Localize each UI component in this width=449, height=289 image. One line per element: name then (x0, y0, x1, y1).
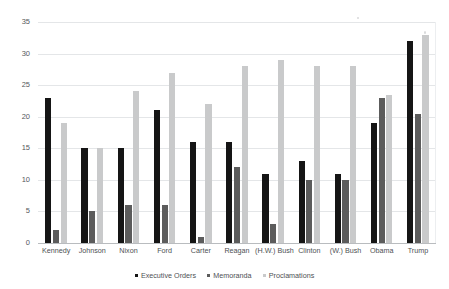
bar (226, 142, 232, 243)
y-axis-tick-label: 20 (4, 113, 30, 121)
scan-speck (357, 17, 359, 19)
plot-area (38, 22, 436, 243)
bar (162, 205, 168, 243)
bar (379, 98, 385, 243)
legend-label: Executive Orders (141, 271, 196, 280)
bar-groups (38, 22, 436, 243)
bar (198, 237, 204, 243)
bar-group (255, 22, 291, 243)
bar (61, 123, 67, 243)
bar (169, 73, 175, 243)
bar (53, 230, 59, 243)
y-axis-tick-label: 10 (4, 176, 30, 184)
x-axis-tick-label: Reagan (219, 247, 255, 254)
bar-group (74, 22, 110, 243)
x-axis-tick-label: Johnson (74, 247, 110, 254)
bar (118, 148, 124, 243)
y-axis-tick-label: 15 (4, 145, 30, 153)
x-axis-tick-label: Nixon (110, 247, 146, 254)
legend-item: Proclamations (263, 271, 315, 280)
gridline (38, 243, 436, 244)
x-axis-tick-label: Kennedy (38, 247, 74, 254)
legend-label: Proclamations (269, 271, 315, 280)
x-axis-tick-label: Trump (400, 247, 436, 254)
bar-chart: 05101520253035 KennedyJohnsonNixonFordCa… (0, 0, 449, 289)
bar (299, 161, 305, 243)
bar-group (291, 22, 327, 243)
bar (45, 98, 51, 243)
x-axis-tick-label: Carter (183, 247, 219, 254)
legend-item: Memoranda (207, 271, 252, 280)
legend-swatch-icon (135, 274, 138, 277)
y-axis-tick-label: 30 (4, 50, 30, 58)
legend-label: Memoranda (213, 271, 251, 280)
bar (133, 91, 139, 243)
bar (386, 95, 392, 243)
bar (154, 110, 160, 243)
bar (81, 148, 87, 243)
x-axis-tick-label: Clinton (291, 247, 327, 254)
bar-group (110, 22, 146, 243)
bar (262, 174, 268, 243)
legend-swatch-icon (207, 274, 210, 277)
bar (314, 66, 320, 243)
legend-swatch-icon (263, 274, 266, 277)
bar (407, 41, 413, 243)
bar (335, 174, 341, 243)
bar (125, 205, 131, 243)
bar (242, 66, 248, 243)
bar (89, 211, 95, 243)
bar (350, 66, 356, 243)
bar (270, 224, 276, 243)
bar (278, 60, 284, 243)
y-axis-tick-label: 35 (4, 18, 30, 26)
x-axis-tick-label: Ford (147, 247, 183, 254)
legend-item: Executive Orders (135, 271, 196, 280)
bar-group (183, 22, 219, 243)
bar (415, 114, 421, 243)
y-axis-tick-label: 5 (4, 208, 30, 216)
bar-group (147, 22, 183, 243)
bar (342, 180, 348, 243)
bar-group (327, 22, 363, 243)
bar (97, 148, 103, 243)
bar (306, 180, 312, 243)
bar (422, 35, 428, 243)
bar-group (364, 22, 400, 243)
x-axis-tick-label: Obama (364, 247, 400, 254)
x-axis-tick-label: (W.) Bush (327, 247, 363, 254)
legend: Executive OrdersMemorandaProclamations (0, 271, 449, 280)
bar (205, 104, 211, 243)
bar (234, 167, 240, 243)
bar (371, 123, 377, 243)
bar (190, 142, 196, 243)
bar-group (219, 22, 255, 243)
bar-group (400, 22, 436, 243)
y-axis-tick-label: 25 (4, 81, 30, 89)
bar-group (38, 22, 74, 243)
y-axis-tick-label: 0 (4, 239, 30, 247)
x-axis-tick-label: (H.W.) Bush (255, 247, 291, 254)
